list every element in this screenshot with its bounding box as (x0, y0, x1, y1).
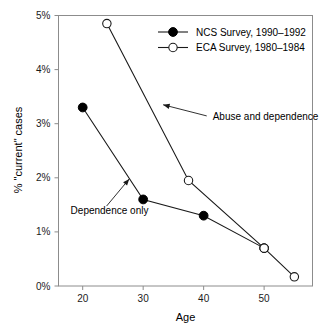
data-point (184, 176, 192, 184)
data-point (260, 244, 268, 252)
x-axis-title: Age (176, 311, 196, 323)
data-point (290, 273, 298, 281)
y-tick-label: 0% (36, 281, 51, 292)
y-axis-ticks (55, 16, 59, 287)
y-axis-title: % "current" cases (12, 106, 24, 193)
x-axis-tick-labels: 20304050 (77, 293, 270, 304)
data-point (199, 211, 208, 220)
series-line-1 (107, 24, 294, 277)
x-tick-label: 30 (138, 293, 150, 304)
line-chart: 0%1%2%3%4%5% 20304050 Abuse and dependen… (0, 0, 331, 332)
annotation-arrow (163, 105, 207, 116)
annotation-label: Dependence only (71, 205, 149, 216)
series-lines (83, 24, 295, 277)
annotation-label: Abuse and dependence (213, 111, 319, 122)
x-tick-label: 50 (259, 293, 271, 304)
y-tick-label: 4% (36, 64, 51, 75)
legend-marker-0 (169, 28, 178, 37)
x-tick-label: 20 (77, 293, 89, 304)
y-axis-tick-labels: 0%1%2%3%4%5% (36, 10, 51, 292)
legend-marker-1 (169, 43, 177, 51)
chart-annotations: Abuse and dependenceDependence only (71, 104, 319, 216)
data-point (103, 19, 111, 27)
y-tick-label: 2% (36, 172, 51, 183)
chart-legend: NCS Survey, 1990–1992ECA Survey, 1980–19… (158, 27, 306, 54)
x-tick-label: 40 (198, 293, 210, 304)
data-point (78, 103, 87, 112)
x-axis-ticks (83, 286, 264, 290)
plot-frame (59, 16, 313, 287)
y-tick-label: 1% (36, 226, 51, 237)
legend-label-1: ECA Survey, 1980–1984 (196, 42, 305, 53)
legend-label-0: NCS Survey, 1990–1992 (196, 27, 306, 38)
chart-figure: 0%1%2%3%4%5% 20304050 Abuse and dependen… (0, 0, 331, 332)
series-line-0 (83, 107, 264, 248)
data-point (139, 195, 148, 204)
y-tick-label: 3% (36, 118, 51, 129)
y-tick-label: 5% (36, 10, 51, 21)
